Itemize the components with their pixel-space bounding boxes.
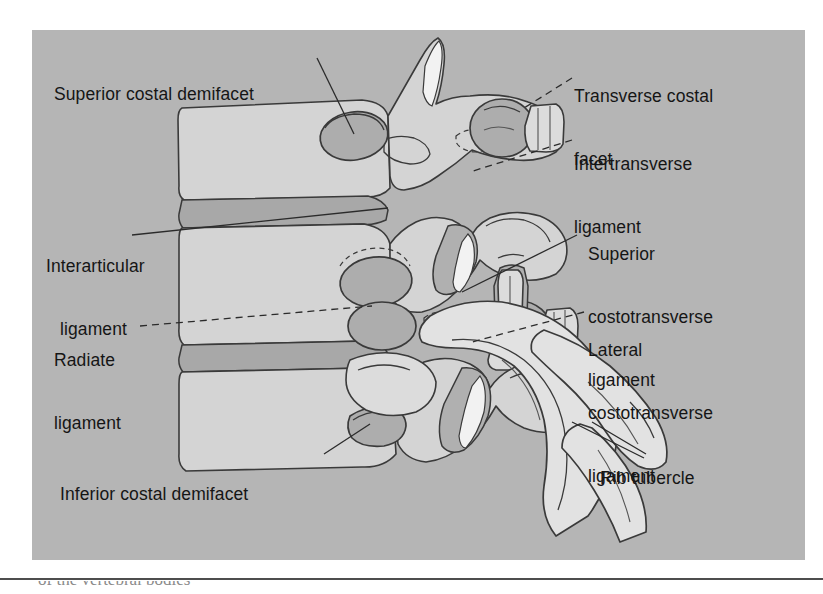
- transverse-costal-facet-shape: [470, 99, 564, 157]
- label-text-line1: Radiate: [54, 350, 121, 371]
- label-text-line1: Lateral: [588, 340, 713, 361]
- label-text-line1: Superior costal demifacet: [54, 84, 254, 105]
- label-text-line1: Interarticular: [46, 256, 145, 277]
- clipped-caption-text: of the vertebral bodies: [38, 581, 190, 590]
- label-rib-tubercle: Rib tubercle: [600, 426, 695, 531]
- label-text-line1: Inferior costal demifacet: [60, 484, 248, 505]
- rib-head: [346, 353, 436, 416]
- label-inferior-costal-demifacet: Inferior costal demifacet: [60, 442, 248, 547]
- clipped-caption-row: of the vertebral bodies: [0, 581, 823, 594]
- label-text-line2: costotransverse: [588, 403, 713, 424]
- label-text-line2: ligament: [54, 413, 121, 434]
- intervertebral-disc-upper: [179, 196, 388, 228]
- label-text-line1: Rib tubercle: [600, 468, 695, 489]
- vertebral-arch-middle: [390, 212, 567, 312]
- label-text-line1: Superior: [588, 244, 713, 265]
- leader-transverse-costal-facet: [524, 78, 572, 108]
- label-superior-costal-demifacet: Superior costal demifacet: [54, 42, 254, 147]
- label-text-line1: Intertransverse: [574, 154, 692, 175]
- label-text-line1: Transverse costal: [574, 86, 713, 107]
- page-horizontal-rule: [0, 578, 823, 580]
- illustration-panel: .bone { fill:#d4d4d4; stroke:#3a3a3a; st…: [32, 30, 805, 560]
- figure-root: .bone { fill:#d4d4d4; stroke:#3a3a3a; st…: [0, 0, 823, 594]
